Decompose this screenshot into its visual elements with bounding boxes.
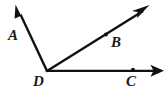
- point-label-d: D: [33, 74, 44, 89]
- ray-DC: [46, 65, 164, 77]
- ray-DA: [15, 5, 47, 72]
- ray-DA-arrowhead: [15, 5, 24, 21]
- ray-DB-segment: [47, 11, 143, 71]
- ray-DA-segment: [21, 15, 48, 72]
- point-marker-C: [131, 68, 135, 72]
- point-label-a: A: [8, 28, 18, 43]
- point-label-c: C: [126, 74, 136, 89]
- geometry-canvas: [0, 0, 168, 96]
- ray-DB: [47, 5, 150, 71]
- point-marker-B: [104, 33, 108, 37]
- geometry-figure: A B C D: [0, 0, 168, 96]
- point-label-b: B: [111, 35, 121, 50]
- vertex-marker-D: [46, 70, 49, 73]
